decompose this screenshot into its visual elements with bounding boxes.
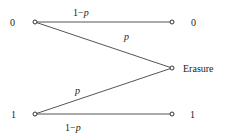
output-label-0: 0: [191, 17, 196, 28]
output-label-1: 1: [190, 109, 195, 120]
output-node-erasure: [170, 66, 174, 70]
input-node-0: [33, 20, 37, 24]
output-node-1: [170, 112, 174, 116]
edge-label-0-to-0: 1−p: [73, 7, 89, 18]
edge-label-prefix: 1−: [65, 122, 76, 133]
edge-label-1-to-1: 1−p: [65, 122, 81, 133]
edge-label-1-to-erasure: p: [74, 85, 80, 96]
input-node-1: [33, 112, 37, 116]
output-label-erasure: Erasure: [183, 63, 214, 74]
edge-label-var: p: [83, 7, 89, 18]
edge-0-to-erasure: [35, 22, 172, 68]
edge-label-var: p: [75, 122, 81, 133]
edge-label-prefix: 1−: [73, 7, 84, 18]
input-label-1: 1: [11, 109, 16, 120]
edge-label-0-to-erasure: p: [123, 31, 129, 42]
edge-1-to-erasure: [35, 68, 172, 114]
input-label-0: 0: [10, 17, 15, 28]
bec-diagram: 0 1 0 Erasure 1 1−p p p 1−p: [0, 0, 227, 137]
output-node-0: [170, 20, 174, 24]
